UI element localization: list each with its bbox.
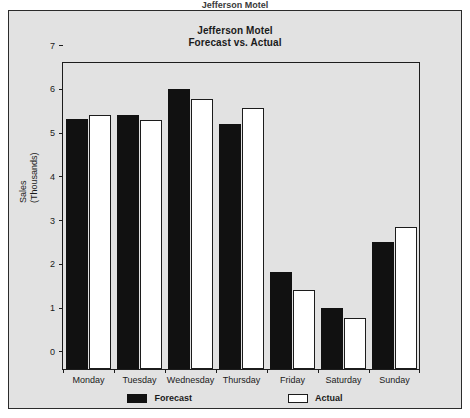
x-axis-label-sunday: Sunday <box>369 375 420 385</box>
x-axis-label-saturday: Saturday <box>318 375 369 385</box>
bar-group: Monday <box>63 63 114 369</box>
x-axis-label-wednesday: Wednesday <box>165 375 216 385</box>
bar-group: Thursday <box>216 63 267 369</box>
y-axis-tick: 1 <box>50 298 63 316</box>
bar-group: Tuesday <box>114 63 165 369</box>
x-axis-label-friday: Friday <box>267 375 318 385</box>
bar-forecast-friday <box>270 272 292 369</box>
chart-title-block: Jefferson Motel Forecast vs. Actual <box>9 25 461 49</box>
bar-group: Wednesday <box>165 63 216 369</box>
bar-actual-friday <box>293 290 315 369</box>
chart-title: Jefferson Motel <box>9 25 461 37</box>
y-axis-tick: 0 <box>50 342 63 360</box>
x-axis-tick <box>165 369 166 373</box>
y-axis-tick-label: 2 <box>50 259 55 269</box>
bar-actual-thursday <box>242 108 264 369</box>
y-axis-label-line1: Sales <box>18 191 29 203</box>
bar-series-host: MondayTuesdayWednesdayThursdayFridaySatu… <box>63 63 420 369</box>
y-axis-label-line2: (Thousands) <box>29 191 40 203</box>
y-axis-tick-label: 0 <box>50 347 55 357</box>
plot-right-border <box>419 62 420 369</box>
x-axis-label-tuesday: Tuesday <box>114 375 165 385</box>
x-axis-tick <box>369 369 370 373</box>
legend-swatch-actual <box>288 394 308 403</box>
y-axis-tick-mark <box>59 45 63 46</box>
bar-actual-monday <box>89 115 111 369</box>
y-axis-tick: 7 <box>50 36 63 54</box>
y-axis-tick-label: 1 <box>50 303 55 313</box>
y-axis-label: Sales (Thousands) <box>18 191 40 203</box>
plot-area: 01234567 MondayTuesdayWednesdayThursdayF… <box>62 62 420 370</box>
y-axis-tick-label: 5 <box>50 128 55 138</box>
cropped-top-caption: Jefferson Motel <box>0 0 470 9</box>
bar-forecast-monday <box>66 119 88 369</box>
y-axis-tick: 5 <box>50 123 63 141</box>
y-axis-tick-label: 4 <box>50 172 55 182</box>
y-axis-tick: 4 <box>50 167 63 185</box>
chart-subtitle: Forecast vs. Actual <box>9 37 461 49</box>
bar-actual-wednesday <box>191 99 213 369</box>
y-axis-tick-label: 7 <box>50 41 55 51</box>
chart-figure: Jefferson Motel Forecast vs. Actual Sale… <box>8 10 462 409</box>
x-axis-label-monday: Monday <box>63 375 114 385</box>
x-axis-tick <box>114 369 115 373</box>
cropped-top-caption-text: Jefferson Motel <box>202 0 269 9</box>
x-axis-tick <box>267 369 268 373</box>
y-axis-tick: 6 <box>50 80 63 98</box>
bar-actual-saturday <box>344 318 366 369</box>
x-axis-tick <box>216 369 217 373</box>
bar-group: Friday <box>267 63 318 369</box>
x-axis-tick <box>419 369 420 373</box>
legend-item-actual: Actual <box>288 393 343 403</box>
x-axis-tick <box>318 369 319 373</box>
legend-label-actual: Actual <box>315 393 343 403</box>
bar-group: Saturday <box>318 63 369 369</box>
legend-item-forecast: Forecast <box>127 393 192 403</box>
y-axis-tick: 3 <box>50 211 63 229</box>
bar-forecast-tuesday <box>117 115 139 369</box>
bar-actual-sunday <box>395 227 417 369</box>
y-axis-tick: 2 <box>50 255 63 273</box>
x-axis-label-thursday: Thursday <box>216 375 267 385</box>
legend-label-forecast: Forecast <box>154 393 192 403</box>
bar-forecast-sunday <box>372 242 394 369</box>
x-axis-tick <box>63 369 64 373</box>
y-axis-tick-label: 3 <box>50 216 55 226</box>
chart-legend: Forecast Actual <box>9 393 461 403</box>
bar-forecast-wednesday <box>168 89 190 369</box>
bar-actual-tuesday <box>140 120 162 369</box>
y-axis-tick-label: 6 <box>50 84 55 94</box>
bar-group: Sunday <box>369 63 420 369</box>
bar-forecast-thursday <box>219 124 241 369</box>
bar-forecast-saturday <box>321 308 343 369</box>
legend-swatch-forecast <box>127 394 147 403</box>
